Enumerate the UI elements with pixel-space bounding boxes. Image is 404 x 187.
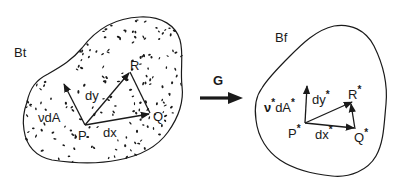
stipple-dot [89, 49, 91, 52]
stipple-dot [73, 147, 76, 150]
stipple-dot [71, 133, 75, 137]
stipple-dot [112, 110, 115, 114]
point-label-q: Q [153, 109, 163, 124]
stipple-dot [40, 101, 42, 104]
stipple-dot [149, 83, 152, 85]
stipple-dot [91, 106, 94, 109]
stipple-dot [162, 101, 165, 104]
stipple-dot [71, 109, 75, 113]
vector-label-dx-star: dx* [315, 124, 333, 142]
point-label-r: R [130, 58, 139, 73]
stipple-dot [70, 130, 73, 132]
stipple-dot [107, 157, 109, 160]
stipple-dot [153, 127, 155, 130]
stipple-dot [26, 114, 29, 118]
stipple-dot [76, 68, 79, 71]
stipple-dot [134, 31, 137, 34]
mapping-arrowhead-icon [228, 92, 243, 104]
stipple-dot [158, 30, 161, 33]
point-label-r-star: R* [348, 84, 361, 102]
stipple-dot [161, 85, 164, 88]
stipple-dot [114, 155, 116, 158]
stipple-dot [164, 114, 168, 117]
stipple-dot [158, 133, 161, 135]
stipple-dot [77, 65, 80, 69]
deformation-diagram: Bt R Q P dy dx νdA G Bf R* Q* P* dy* dx*… [0, 0, 404, 187]
stipple-dot [36, 83, 38, 86]
stipple-dot [169, 33, 171, 36]
point-label-p: P [78, 128, 87, 143]
stipple-dot [164, 119, 167, 122]
stipple-dot [131, 30, 134, 33]
stipple-dot [101, 53, 104, 56]
stipple-dot [51, 131, 55, 134]
area-element-label: νdA [38, 110, 61, 125]
stipple-dot [129, 89, 132, 92]
point-label-p-star: P* [288, 123, 301, 141]
stipple-dot [102, 31, 105, 33]
stipple-dot [91, 145, 94, 148]
stipple-dot [110, 25, 113, 27]
stipple-dot [105, 76, 109, 80]
stipple-dot [164, 29, 167, 32]
stipple-dot [152, 76, 154, 79]
stipple-dot [64, 125, 66, 128]
stipple-dot [134, 141, 137, 144]
stipple-dot [161, 99, 163, 102]
stipple-dot [80, 59, 82, 62]
normal-vector-star-arrow [305, 86, 307, 123]
stipple-dot [130, 149, 133, 152]
stipple-dot [101, 75, 105, 79]
stipple-dot [106, 51, 110, 53]
stipple-dot [163, 104, 167, 107]
stipple-dot [147, 67, 149, 70]
stipple-dot [161, 32, 164, 35]
stipple-dot [35, 134, 38, 138]
vector-label-dy: dy [85, 88, 99, 103]
stipple-dot [139, 101, 142, 104]
stipple-dot [165, 66, 167, 69]
stipple-dot [139, 118, 142, 121]
stipple-dot [158, 38, 161, 41]
stipple-dot [117, 139, 119, 142]
stipple-dot [142, 124, 145, 126]
stipple-dot [107, 48, 110, 51]
stipple-dot [95, 50, 98, 53]
mapping-g: G [200, 73, 243, 104]
stipple-dot [146, 125, 149, 128]
stipple-dot [149, 78, 152, 82]
stipple-dot [143, 20, 146, 23]
stipple-dot [126, 78, 129, 81]
stipple-dot [134, 102, 135, 105]
stipple-dot [100, 111, 103, 114]
stipple-dot [104, 28, 108, 31]
stipple-dot [80, 66, 84, 69]
stipple-dot [40, 149, 44, 152]
stipple-dot [121, 72, 124, 74]
vector-label-dx: dx [103, 125, 117, 140]
stipple-dot [136, 130, 138, 133]
stipple-dot [88, 126, 91, 129]
stipple-dot [158, 57, 160, 60]
stipple-dot [65, 102, 68, 105]
stipple-dot [96, 126, 99, 129]
stipple-dot [77, 90, 79, 94]
normal-vector-arrow [64, 84, 85, 125]
stipple-dot [161, 124, 163, 127]
stipple-dot [174, 51, 178, 54]
body-label-bf: Bf [275, 30, 288, 45]
stipple-dot [145, 74, 148, 77]
stipple-dot [87, 56, 90, 59]
stipple-dot [27, 131, 30, 134]
rq-edge [130, 72, 150, 113]
stipple-dot [138, 108, 140, 111]
stipple-dot [104, 36, 107, 38]
stipple-dot [172, 49, 174, 52]
deformed-body-bf: Bf R* Q* P* dy* dx* ν*dA* [255, 25, 386, 176]
stipple-dot [150, 56, 153, 59]
stipple-dot [129, 122, 132, 125]
stipple-dot [137, 142, 140, 144]
stipple-dot [132, 110, 135, 113]
stipple-dot [62, 144, 65, 146]
stipple-dot [102, 98, 105, 100]
